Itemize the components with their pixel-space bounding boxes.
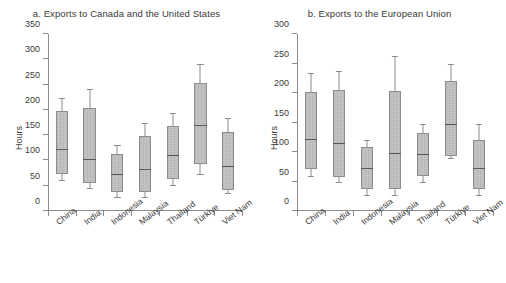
whisker-upper	[450, 65, 451, 82]
panel-b-ytick	[292, 181, 297, 182]
panel-a-ytick-label: 50	[30, 171, 40, 181]
boxplot-item	[305, 34, 317, 211]
panel-a-ytick	[43, 134, 48, 135]
boxplot-item	[389, 34, 401, 211]
panel-b-ytick	[292, 63, 297, 64]
boxplot-figure: a. Exports to Canada and the United Stat…	[0, 0, 506, 283]
median-line	[222, 166, 234, 167]
median-line	[111, 174, 123, 175]
whisker-cap-upper	[197, 64, 203, 65]
panel-a-ytick	[43, 33, 48, 34]
panel-a-title: a. Exports to Canada and the United Stat…	[0, 8, 253, 19]
whisker-cap-lower	[476, 195, 482, 196]
whisker-cap-lower	[225, 193, 231, 194]
whisker-cap-upper	[392, 56, 398, 57]
whisker-upper	[61, 99, 62, 112]
whisker-upper	[338, 72, 339, 90]
boxplot-item	[167, 34, 179, 211]
whisker-cap-upper	[59, 98, 65, 99]
panel-a: a. Exports to Canada and the United Stat…	[0, 0, 253, 283]
whisker-cap-lower	[308, 176, 314, 177]
median-line	[83, 159, 95, 160]
whisker-cap-upper	[142, 123, 148, 124]
boxplot-item	[473, 34, 485, 211]
whisker-cap-lower	[420, 182, 426, 183]
panel-b-ytick-label: 150	[274, 108, 289, 118]
box-iqr	[333, 90, 345, 177]
median-line	[361, 168, 373, 169]
whisker-cap-upper	[448, 64, 454, 65]
box-iqr	[194, 83, 206, 164]
panel-a-ytick-label: 100	[25, 145, 40, 155]
boxplot-item	[111, 34, 123, 211]
whisker-cap-upper	[170, 113, 176, 114]
panel-a-ytick	[43, 159, 48, 160]
whisker-cap-upper	[364, 140, 370, 141]
panel-a-ytick-label: 350	[25, 19, 40, 29]
whisker-upper	[478, 125, 479, 140]
panel-b-ytick	[292, 92, 297, 93]
panel-b-plot-area: 050100150200250300 ChinaIndiaIndonesiaMa…	[297, 34, 493, 211]
boxplot-item	[56, 34, 68, 211]
whisker-cap-upper	[336, 71, 342, 72]
median-line	[139, 169, 151, 170]
median-line	[305, 139, 317, 140]
panel-a-ylabel: Hours	[14, 126, 24, 150]
box-iqr	[222, 132, 234, 190]
panel-a-ytick-label: 150	[25, 120, 40, 130]
panel-a-xtick	[48, 211, 49, 216]
panel-a-ytick	[43, 109, 48, 110]
panel-b-title: b. Exports to the European Union	[253, 8, 506, 19]
panel-b-y-axis	[297, 34, 298, 211]
box-iqr	[139, 136, 151, 192]
boxplot-item	[194, 34, 206, 211]
whisker-cap-lower	[364, 195, 370, 196]
box-iqr	[473, 140, 485, 189]
panel-b-ytick-label: 100	[274, 137, 289, 147]
whisker-upper	[200, 65, 201, 83]
whisker-cap-lower	[170, 185, 176, 186]
panel-b-ytick-label: 0	[284, 196, 289, 206]
median-line	[167, 155, 179, 156]
panel-b-ytick-label: 250	[274, 49, 289, 59]
panel-b-ytick-label: 200	[274, 78, 289, 88]
whisker-upper	[89, 90, 90, 108]
whisker-cap-lower	[197, 174, 203, 175]
panel-a-ytick	[43, 84, 48, 85]
whisker-upper	[422, 125, 423, 133]
panel-a-xtick	[103, 211, 104, 216]
panel-a-ytick	[43, 185, 48, 186]
panel-a-ytick	[43, 58, 48, 59]
whisker-upper	[310, 74, 311, 92]
whisker-cap-lower	[448, 158, 454, 159]
whisker-upper	[117, 146, 118, 154]
box-iqr	[389, 91, 401, 190]
whisker-cap-upper	[308, 73, 314, 74]
panel-a-ytick-label: 250	[25, 70, 40, 80]
panel-a-plot-area: 050100150200250300350 ChinaIndiaIndonesi…	[48, 34, 242, 211]
panel-b-ytick-label: 300	[274, 19, 289, 29]
panel-b-xtick	[297, 211, 298, 216]
panel-a-y-axis	[48, 34, 49, 211]
boxplot-item	[361, 34, 373, 211]
whisker-cap-lower	[142, 197, 148, 198]
median-line	[56, 149, 68, 150]
median-line	[445, 124, 457, 125]
whisker-upper	[366, 141, 367, 147]
whisker-cap-lower	[392, 195, 398, 196]
whisker-cap-upper	[225, 118, 231, 119]
median-line	[417, 154, 429, 155]
whisker-cap-lower	[336, 182, 342, 183]
boxplot-item	[417, 34, 429, 211]
panel-b-ytick	[292, 151, 297, 152]
boxplot-item	[83, 34, 95, 211]
median-line	[389, 153, 401, 154]
box-iqr	[305, 92, 317, 168]
boxplot-item	[139, 34, 151, 211]
panel-a-ytick-label: 200	[25, 95, 40, 105]
panel-b-xtick	[353, 211, 354, 216]
whisker-cap-upper	[86, 89, 92, 90]
whisker-cap-upper	[114, 145, 120, 146]
whisker-upper	[228, 119, 229, 132]
panel-b-ytick-label: 50	[279, 167, 289, 177]
